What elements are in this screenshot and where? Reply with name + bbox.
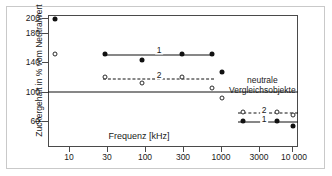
x-tick-label-3000: 3000 <box>250 153 269 162</box>
data-point <box>210 52 215 57</box>
data-point <box>275 110 280 115</box>
y-tick-60 <box>42 121 48 122</box>
x-tick-label-100: 100 <box>138 153 152 162</box>
y-tick-200 <box>42 18 48 19</box>
y-tick-label-140: 140 <box>16 58 40 67</box>
x-tick-label-30: 30 <box>102 153 111 162</box>
data-point <box>140 81 145 86</box>
figure-container: Zuckergehalt in % vom Neutralwert 200 18… <box>0 0 332 176</box>
fit-line-series-1-lower <box>238 122 298 123</box>
data-point <box>53 17 58 22</box>
data-point <box>220 70 225 75</box>
data-point <box>291 124 296 129</box>
x-tick-label-10000: 10 000 <box>281 153 307 162</box>
data-point <box>180 75 185 80</box>
y-tick-label-60: 60 <box>16 117 40 126</box>
x-tick-label-1000: 1000 <box>212 153 231 162</box>
x-tick-label-10: 10 <box>64 153 73 162</box>
y-tick-label-180: 180 <box>16 29 40 38</box>
series-label-1-upper: 1 <box>155 46 163 55</box>
y-tick-180 <box>42 33 48 34</box>
fit-line-series-2-lower <box>238 113 298 114</box>
data-point <box>103 75 108 80</box>
data-point <box>241 110 246 115</box>
fit-line-series-1-upper <box>103 55 214 56</box>
data-point <box>275 119 280 124</box>
data-point <box>140 58 145 63</box>
data-point <box>53 52 58 57</box>
y-tick-label-100: 100 <box>16 88 40 97</box>
series-label-1-lower: 1 <box>260 115 268 124</box>
data-point <box>210 86 215 91</box>
data-point <box>220 96 225 101</box>
series-label-2-upper: 2 <box>155 71 163 80</box>
data-point <box>180 52 185 57</box>
data-point <box>291 113 296 118</box>
neutral-reference-label: neutrale Vergleichsobjekte <box>229 76 296 95</box>
y-tick-140 <box>42 62 48 63</box>
x-axis-label: Frequenz [kHz] <box>108 131 169 141</box>
data-point <box>103 52 108 57</box>
data-point <box>241 119 246 124</box>
y-tick-label-200: 200 <box>16 14 40 23</box>
x-tick-label-300: 300 <box>176 153 190 162</box>
neutral-label-line-2: Vergleichsobjekte <box>229 86 296 96</box>
